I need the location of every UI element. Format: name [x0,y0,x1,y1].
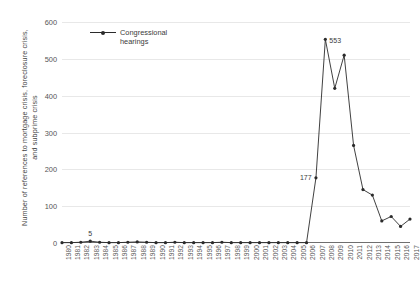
x-axis-tick-label: 2008 [328,245,335,260]
x-axis-tick-label: 2013 [375,245,382,260]
data-point [117,241,120,244]
x-axis-tick-label: 1998 [234,245,241,260]
x-axis-tick-label: 2009 [337,245,344,260]
data-point [89,240,92,243]
data-point [267,241,270,244]
data-point [126,241,129,244]
x-axis-tick-label: 2012 [366,245,373,260]
data-point [343,54,346,57]
data-point [408,217,411,220]
data-point [390,215,393,218]
data-point [399,225,402,228]
data-point [192,241,195,244]
y-axis-title-line2: and subprime crisis [29,3,39,253]
data-point [249,241,252,244]
x-axis-tick-label: 1999 [243,245,250,260]
y-axis-title-line1: Number of references to mortgage crisis,… [20,29,29,226]
data-label: 553 [329,37,341,44]
data-point [239,241,242,244]
x-axis-tick-label: 1996 [215,245,222,260]
x-axis-tick-label: 2002 [272,245,279,260]
data-point [230,241,233,244]
data-point [107,241,110,244]
series-congressional-hearings [62,22,410,243]
x-axis-tick-label: 1997 [224,245,231,260]
legend-label-line2: hearings [120,37,167,46]
y-axis-tick-label: 400 [45,91,57,100]
y-axis-tick-label: 0 [53,239,57,248]
data-point [98,241,101,244]
x-axis-tick-label: 1980 [65,245,72,260]
x-axis-tick-label: 2007 [319,245,326,260]
legend-label: Congressional hearings [120,28,167,47]
x-axis-tick-labels: 1980198119821983198419851986198719881989… [62,245,410,301]
x-axis-tick-label: 1990 [159,245,166,260]
data-point [371,194,374,197]
data-point [305,241,308,244]
data-point [333,87,336,90]
x-axis-tick-label: 1981 [74,245,81,260]
x-axis-tick-label: 1989 [149,245,156,260]
x-axis-tick-label: 2003 [281,245,288,260]
x-axis-tick-label: 2015 [394,245,401,260]
x-axis-tick-label: 2004 [290,245,297,260]
series-markers [60,38,411,245]
data-point [164,241,167,244]
data-point [70,241,73,244]
data-point [258,241,261,244]
data-point [352,144,355,147]
x-axis-tick-label: 1986 [121,245,128,260]
data-point [361,188,364,191]
data-point [79,241,82,244]
y-axis-tick-label: 200 [45,165,57,174]
legend: Congressional hearings [90,28,167,47]
data-point [286,241,289,244]
x-axis-tick-label: 2000 [253,245,260,260]
legend-label-line1: Congressional [120,28,167,37]
data-point [145,241,148,244]
data-point [324,38,327,41]
y-axis-tick-label: 100 [45,202,57,211]
x-axis-tick-label: 2005 [300,245,307,260]
x-axis-tick-label: 1984 [102,245,109,260]
x-axis-tick-label: 1987 [130,245,137,260]
data-point [201,241,204,244]
data-point [211,241,214,244]
data-point [314,176,317,179]
x-axis-tick-label: 1994 [196,245,203,260]
data-point [277,241,280,244]
y-axis-tick-label: 300 [45,128,57,137]
x-axis-tick-label: 2017 [413,245,420,260]
data-point [60,241,63,244]
data-label: 5 [88,230,92,237]
x-axis-tick-label: 2010 [347,245,354,260]
data-point [380,219,383,222]
y-axis-tick-label: 600 [45,18,57,27]
x-axis-tick-label: 1992 [177,245,184,260]
x-axis-tick-label: 1985 [112,245,119,260]
x-axis-tick-label: 1993 [187,245,194,260]
data-label: 177 [300,173,312,180]
data-point [136,240,139,243]
data-point [173,241,176,244]
x-axis-tick-label: 2011 [356,245,363,259]
x-axis-tick-label: 2001 [262,245,269,260]
y-axis-title: Number of references to mortgage crisis,… [20,3,39,253]
data-point [296,241,299,244]
x-axis-tick-label: 1991 [168,245,175,260]
x-axis-tick-label: 2014 [384,245,391,260]
data-point [154,241,157,244]
x-axis-tick-label: 1983 [93,245,100,260]
x-axis-tick-label: 2016 [403,245,410,260]
x-axis-tick-label: 1982 [83,245,90,260]
plot-area: 0100200300400500600 5177553 Congressiona… [62,22,410,243]
y-axis-tick-label: 500 [45,54,57,63]
legend-swatch-icon [90,28,116,37]
x-axis-tick-label: 1988 [140,245,147,260]
data-point [220,241,223,244]
x-axis-tick-label: 1995 [206,245,213,260]
data-point [183,241,186,244]
x-axis-tick-label: 2006 [309,245,316,260]
